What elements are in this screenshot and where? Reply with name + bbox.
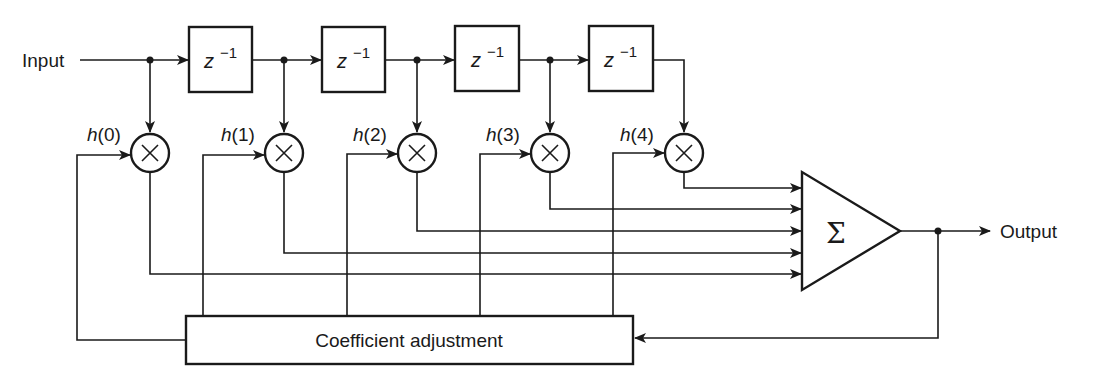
svg-text:h(2): h(2) (353, 124, 387, 145)
multiplier-1: h(1) (221, 124, 303, 172)
svg-text:−1: −1 (620, 43, 637, 60)
svg-text:z: z (203, 50, 214, 72)
svg-text:h(4): h(4) (620, 124, 654, 145)
svg-text:z: z (603, 49, 614, 71)
coefficient-adjustment-block: Coefficient adjustment (186, 316, 633, 364)
multiplier-4: h(4) (620, 124, 703, 172)
svg-text:h(3): h(3) (486, 124, 520, 145)
multiplier-0: h(0) (87, 124, 169, 172)
delay-block-3: z −1 (455, 26, 519, 91)
sigma-icon: Σ (826, 217, 846, 250)
coefficient-feeds (77, 153, 664, 340)
delay-block-2: z −1 (322, 27, 385, 92)
multiplier-2: h(2) (353, 124, 436, 172)
delay-block-1: z −1 (189, 27, 252, 92)
input-label: Input (22, 50, 65, 71)
summer-block: Σ (802, 172, 900, 290)
svg-text:h(1): h(1) (221, 124, 255, 145)
fir-filter-diagram: Input z −1 z −1 z −1 z −1 (0, 0, 1094, 385)
multiplier-3: h(3) (486, 124, 569, 172)
svg-text:−1: −1 (487, 43, 504, 60)
svg-text:−1: −1 (220, 44, 237, 61)
svg-text:−1: −1 (353, 44, 370, 61)
svg-text:Coefficient adjustment: Coefficient adjustment (315, 330, 503, 351)
svg-text:z: z (470, 49, 481, 71)
svg-text:h(0): h(0) (87, 124, 121, 145)
product-lines (150, 172, 801, 274)
delay-block-4: z −1 (589, 26, 653, 91)
output-label: Output (1000, 221, 1058, 242)
svg-text:z: z (336, 50, 347, 72)
